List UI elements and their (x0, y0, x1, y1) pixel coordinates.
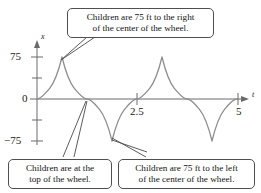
y-axis-label: x (41, 33, 45, 41)
y-tick-label-neg-75: −75 (4, 135, 21, 146)
callout-right-line-1: Children are 75 ft to the right (72, 12, 209, 23)
callout-left-line-1: Children are 75 ft to the left (123, 163, 250, 174)
y-tick-label-0: 0 (22, 93, 28, 104)
leader-bottom-left-a (63, 101, 86, 157)
callout-left-of-center: Children are 75 ft to the left of the ce… (118, 159, 255, 189)
leader-bottom-right-a (112, 138, 146, 157)
callout-top-of-wheel-line-2: top of the wheel. (13, 174, 107, 185)
x-axis-label: t (252, 91, 254, 99)
callout-right-of-center: Children are 75 ft to the right of the c… (67, 8, 214, 38)
callout-top-of-wheel: Children are at the top of the wheel. (8, 159, 112, 189)
leader-top-b (61, 37, 87, 60)
leader-bottom-right-b (112, 140, 147, 152)
y-tick-label-75: 75 (10, 51, 21, 62)
leader-bottom-left-b (74, 101, 87, 157)
x-tick-label-5: 5 (236, 106, 242, 117)
x-tick-label-2-5: 2.5 (130, 106, 144, 117)
x-axis-arrowhead (241, 96, 249, 102)
callout-left-line-2: of the center of the wheel. (123, 174, 250, 185)
callout-top-of-wheel-line-1: Children are at the (13, 163, 107, 174)
y-axis-arrowhead (34, 40, 40, 48)
graph-figure: x t 75 0 −75 2.5 5 Children are 75 ft to… (0, 0, 261, 193)
callout-right-line-2: of the center of the wheel. (72, 23, 209, 34)
leader-top-a (61, 37, 95, 60)
